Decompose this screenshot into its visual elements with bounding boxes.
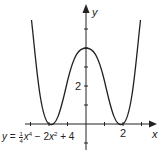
eq-minus-2: − 2 — [32, 131, 49, 142]
eq-equals: = — [7, 131, 18, 142]
eq-numerator: 1 — [19, 131, 22, 137]
eq-fraction: 14 — [19, 131, 22, 144]
equation-label: y = 14x4 − 2x2 + 4 — [2, 131, 74, 144]
x-axis-label: x — [151, 128, 158, 140]
eq-denominator: 4 — [19, 137, 22, 144]
eq-plus-4: + 4 — [57, 131, 74, 142]
x-tick-label-2: 2 — [120, 127, 126, 139]
y-axis-label: y — [91, 6, 99, 18]
y-axis-arrow-icon — [83, 4, 90, 13]
x-axis-arrow-icon — [149, 121, 157, 128]
y-tick-label-2: 2 — [75, 80, 81, 92]
